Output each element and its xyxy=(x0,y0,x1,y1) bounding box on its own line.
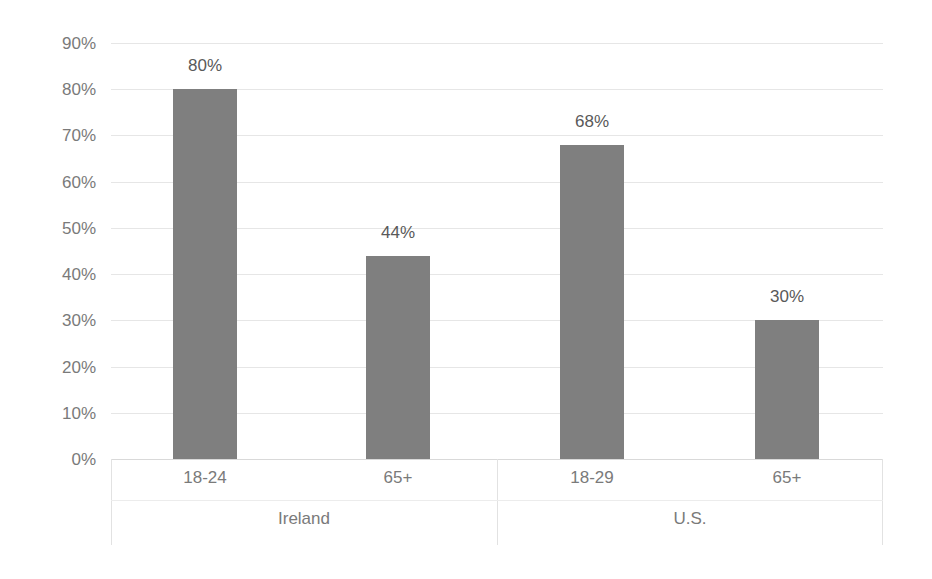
bar-ireland-65-plus xyxy=(366,256,430,459)
category-label-us-65-plus: 65+ xyxy=(707,469,867,486)
y-tick-label: 70% xyxy=(26,127,96,144)
bar-ireland-18-24 xyxy=(173,89,237,459)
y-tick-label: 60% xyxy=(26,174,96,191)
group-label-ireland: Ireland xyxy=(184,510,424,527)
axis-tier-separator xyxy=(111,500,883,501)
group-label-us: U.S. xyxy=(570,510,810,527)
axis-group-separator xyxy=(497,459,498,545)
data-label-ireland-65-plus: 44% xyxy=(338,224,458,241)
y-axis: 90% 80% 70% 60% 50% 40% 30% 20% 10% 0% xyxy=(26,0,96,579)
bar-us-65-plus xyxy=(755,320,819,459)
data-label-us-65-plus: 30% xyxy=(727,288,847,305)
y-tick-label: 40% xyxy=(26,266,96,283)
y-tick-label: 50% xyxy=(26,220,96,237)
bar-us-18-29 xyxy=(560,145,624,459)
y-tick-label: 80% xyxy=(26,81,96,98)
category-label-ireland-65-plus: 65+ xyxy=(318,469,478,486)
y-tick-label: 30% xyxy=(26,312,96,329)
axis-edge-right xyxy=(882,459,883,545)
y-tick-label: 90% xyxy=(26,35,96,52)
plot-area xyxy=(111,43,883,459)
category-axis: 18-24 65+ 18-29 65+ Ireland U.S. xyxy=(111,459,883,545)
gridline xyxy=(111,43,883,44)
bar-chart: 90% 80% 70% 60% 50% 40% 30% 20% 10% 0% 8… xyxy=(0,0,932,579)
y-tick-label: 0% xyxy=(26,451,96,468)
y-tick-label: 20% xyxy=(26,359,96,376)
category-label-us-18-29: 18-29 xyxy=(512,469,672,486)
data-label-ireland-18-24: 80% xyxy=(145,57,265,74)
axis-edge-left xyxy=(111,459,112,545)
category-label-ireland-18-24: 18-24 xyxy=(125,469,285,486)
y-tick-label: 10% xyxy=(26,405,96,422)
data-label-us-18-29: 68% xyxy=(532,113,652,130)
